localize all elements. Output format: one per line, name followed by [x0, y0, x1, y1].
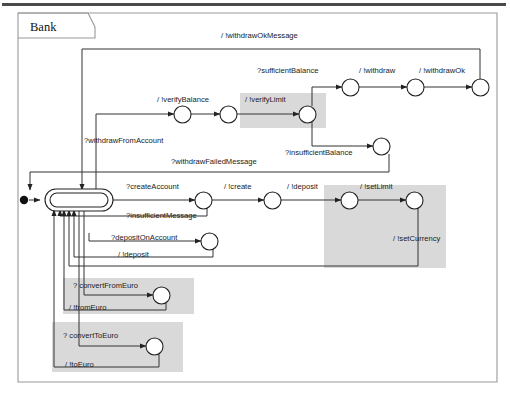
label-createAccount: ?createAccount — [126, 182, 180, 191]
state-initial-pseudostate[interactable] — [20, 196, 28, 204]
label-withdrawOk: / !withdrawOk — [419, 66, 465, 75]
state-convert-to-euro[interactable] — [146, 338, 163, 355]
label-withdrawOkMessage: / !withdrawOkMessage — [221, 31, 298, 40]
label-withdrawFailedMessage: ?withdrawFailedMessage — [171, 157, 257, 166]
state-sufficient-balance[interactable] — [342, 79, 359, 96]
label-insufficientMessage: ?insufficientMessage — [126, 211, 197, 220]
frame-title-label: Bank — [30, 20, 57, 34]
top-rule — [2, 3, 506, 6]
state-idle-inner[interactable] — [50, 193, 108, 207]
state-create-account[interactable] — [195, 192, 212, 209]
label-deposit-top: / !deposit — [287, 182, 319, 191]
state-create[interactable] — [264, 192, 281, 209]
state-diagram-page: Bank — [0, 0, 510, 397]
state-insufficient-balance[interactable] — [373, 138, 390, 155]
label-insufficientBalance: ?insufficientBalance — [285, 148, 352, 157]
bank-state-machine-diagram: Bank — [0, 0, 510, 397]
state-verify-balance-1[interactable] — [174, 106, 191, 123]
label-setLimit: / !setLimit — [360, 182, 393, 191]
label-toEuro: / !toEuro — [65, 360, 94, 369]
label-fromEuro: / !fromEuro — [69, 303, 107, 312]
state-convert-from-euro[interactable] — [153, 287, 170, 304]
label-convertToEuro: ? convertToEuro — [63, 331, 118, 340]
state-verify-limit[interactable] — [299, 106, 316, 123]
label-depositOnAccount: ?depositOnAccount — [111, 233, 178, 242]
label-deposit-return: / !deposit — [118, 250, 150, 259]
state-verify-balance-2[interactable] — [220, 106, 237, 123]
state-set-limit[interactable] — [406, 192, 423, 209]
label-create: / !create — [224, 182, 251, 191]
label-verifyBalance: / !verifyBalance — [157, 95, 209, 104]
label-setCurrency: / !setCurrency — [393, 234, 440, 243]
edge-withdrawFromAccount — [96, 114, 174, 192]
state-withdraw-ok[interactable] — [472, 79, 489, 96]
label-withdraw: / !withdraw — [359, 66, 396, 75]
state-deposit-top[interactable] — [341, 192, 358, 209]
state-withdraw[interactable] — [407, 79, 424, 96]
state-deposit-on-account[interactable] — [201, 233, 218, 250]
label-verifyLimit: / !verifyLimit — [245, 95, 286, 104]
label-convertFromEuro: ? convertFromEuro — [73, 281, 138, 290]
label-withdrawFromAccount: ?withdrawFromAccount — [84, 136, 164, 145]
label-sufficientBalance: ?sufficientBalance — [257, 66, 319, 75]
